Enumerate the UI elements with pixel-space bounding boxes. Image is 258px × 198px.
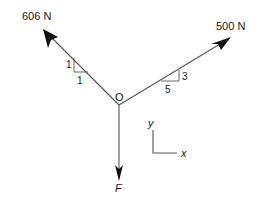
coordinate-axes: y x	[147, 117, 187, 159]
force-606-label: 606 N	[22, 10, 51, 22]
slope-606-rise-label: 1	[66, 59, 72, 70]
force-F-vector: F	[115, 105, 123, 194]
slope-triangle-1-1	[74, 58, 88, 72]
force-500-line	[119, 41, 225, 105]
force-500-vector: 500 N 3 5	[119, 20, 245, 105]
force-F-label: F	[115, 182, 123, 194]
y-axis-label: y	[147, 117, 155, 129]
x-axis-label: x	[180, 147, 187, 159]
force-606-line	[48, 34, 119, 105]
force-500-label: 500 N	[216, 20, 245, 32]
slope-500-rise-label: 3	[182, 71, 188, 82]
force-606-arrowhead-icon	[43, 29, 58, 48]
origin-label: O	[115, 91, 124, 103]
slope-triangle-5-3	[161, 70, 179, 81]
force-606-vector: 606 N 1 1	[22, 10, 119, 105]
force-diagram: 606 N 1 1 500 N 3 5 F O y x	[0, 0, 258, 198]
slope-500-run-label: 5	[165, 84, 171, 95]
axes-lines	[153, 130, 177, 153]
slope-606-run-label: 1	[77, 75, 83, 86]
